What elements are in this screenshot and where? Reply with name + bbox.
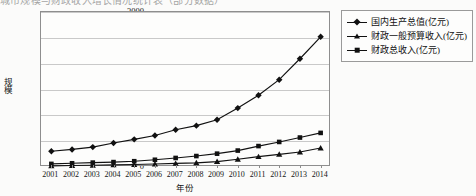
x-axis-tick-label: 2007 [164,169,185,180]
x-axis-tick-mark [51,165,52,168]
x-axis-tick-label: 2003 [81,169,102,180]
x-axis-tick-mark [155,165,156,168]
x-axis-title: 年份 [40,181,330,193]
x-axis-tick-label: 2013 [289,169,310,180]
legend-item-label: 财政一般预算收入(亿元) [368,29,467,43]
legend-item[interactable]: 国内生产总值(亿元) [346,15,467,29]
x-axis-tick-mark [300,165,301,168]
x-axis-tick-label: 2012 [268,169,289,180]
x-axis-tick-label: 2014 [309,169,330,180]
series-square [49,131,323,167]
y-axis-title: 规模 [1,78,13,94]
legend-triangle-icon [346,29,368,43]
x-axis-tick-mark [93,165,94,168]
x-axis-tick-mark [238,165,239,168]
x-axis-tick-mark [176,165,177,168]
x-axis-tick-label: 2005 [123,169,144,180]
legend-square-icon [346,43,368,57]
x-axis-labels: 2001200220032004200520062007200820092010… [40,169,330,180]
chart-legend[interactable]: 国内生产总值(亿元)财政一般预算收入(亿元)财政总收入(亿元) [341,10,473,62]
series-diamond [48,34,324,155]
x-axis-tick-label: 2010 [226,169,247,180]
x-axis-tick-mark [196,165,197,168]
legend-item-label: 财政总收入(亿元) [368,43,440,57]
legend-item[interactable]: 财政一般预算收入(亿元) [346,29,467,43]
legend-item[interactable]: 财政总收入(亿元) [346,43,467,57]
legend-diamond-icon [346,15,368,29]
series-lines [41,12,331,167]
x-axis-tick-mark [259,165,260,168]
x-axis-tick-mark [321,165,322,168]
x-axis-tick-label: 2008 [185,169,206,180]
x-axis-tick-label: 2009 [206,169,227,180]
cutoff-header-label: 城市规模与财政收入增长情况统计表（部分数据） [0,0,476,6]
x-axis-tick-mark [217,165,218,168]
x-axis-tick-label: 2011 [247,169,268,180]
plot-area [40,11,330,166]
x-axis-tick-mark [279,165,280,168]
cutoff-header-text: 城市规模与财政收入增长情况统计表（部分数据） [0,0,476,7]
x-axis-tick-mark [72,165,73,168]
x-axis-tick-label: 2004 [102,169,123,180]
chart-page: 城市规模与财政收入增长情况统计表（部分数据） 规模 05001000150020… [0,0,476,196]
x-axis-tick-mark [134,165,135,168]
x-axis-tick-label: 2006 [144,169,165,180]
x-axis-tick-mark [114,165,115,168]
legend-item-label: 国内生产总值(亿元) [368,15,449,29]
x-axis-tick-label: 2002 [61,169,82,180]
x-axis-tick-label: 2001 [40,169,61,180]
